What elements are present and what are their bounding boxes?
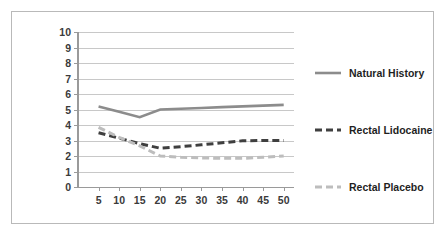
plot-area: 012345678910 5101520253035404550: [78, 32, 294, 187]
legend-label: Rectal Lidocaine: [349, 125, 432, 136]
x-tick-mark: [181, 187, 182, 191]
x-tick-mark: [160, 187, 161, 191]
x-tick-label: 20: [154, 194, 166, 206]
legend-label: Natural History: [349, 68, 424, 79]
x-tick-mark: [201, 187, 202, 191]
x-tick-label: 45: [257, 194, 269, 206]
y-tick-label: 6: [65, 88, 71, 100]
series-line: [99, 127, 284, 158]
x-tick-mark: [99, 187, 100, 191]
legend-item[interactable]: Natural History: [315, 68, 424, 79]
x-tick-label: 30: [196, 194, 208, 206]
y-tick-label: 0: [65, 181, 71, 193]
legend-swatch-icon: [315, 68, 341, 78]
series-line: [99, 105, 284, 117]
y-tick-label: 3: [65, 135, 71, 147]
x-tick-label: 40: [237, 194, 249, 206]
y-tick-label: 7: [65, 73, 71, 85]
x-tick-label: 35: [216, 194, 228, 206]
chart-frame: 012345678910 5101520253035404550 Natural…: [11, 11, 434, 224]
x-tick-mark: [140, 187, 141, 191]
x-tick-label: 15: [134, 194, 146, 206]
x-tick-mark: [263, 187, 264, 191]
y-tick-label: 5: [65, 104, 71, 116]
x-tick-label: 25: [175, 194, 187, 206]
x-tick-mark: [284, 187, 285, 191]
y-tick-label: 10: [59, 26, 71, 38]
x-tick-label: 50: [278, 194, 290, 206]
series-line: [99, 133, 284, 149]
y-tick-label: 4: [65, 119, 71, 131]
y-tick-label: 9: [65, 42, 71, 54]
x-tick-mark: [119, 187, 120, 191]
legend-swatch-icon: [315, 182, 341, 192]
y-tick-label: 1: [65, 166, 71, 178]
x-tick-label: 5: [96, 194, 102, 206]
legend-swatch-icon: [315, 125, 341, 135]
x-tick-mark: [243, 187, 244, 191]
legend-item[interactable]: Rectal Lidocaine: [315, 125, 432, 136]
y-tick-label: 8: [65, 57, 71, 69]
legend-label: Rectal Placebo: [349, 182, 424, 193]
x-tick-mark: [222, 187, 223, 191]
y-tick-label: 2: [65, 150, 71, 162]
series-lines: [78, 32, 294, 187]
x-tick-label: 10: [113, 194, 125, 206]
legend-item[interactable]: Rectal Placebo: [315, 182, 424, 193]
